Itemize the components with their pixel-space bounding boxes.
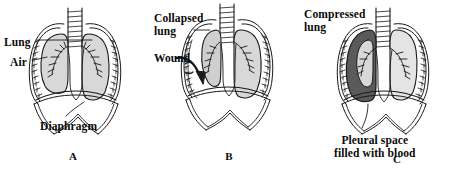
label-compressed-lung: Compressed lung — [304, 8, 365, 33]
lung-right-a — [82, 34, 109, 100]
trachea-a — [68, 8, 82, 48]
panel-a-illustration — [0, 0, 152, 172]
label-collapsed-lung: Collapsed lung — [154, 12, 203, 37]
panel-c-hemothorax: Compressed lung Pleural space filled wit… — [304, 0, 468, 172]
figure-canvas: Lung Air Diaphragm A — [0, 0, 468, 172]
panel-letter-a: A — [58, 150, 88, 162]
panel-letter-c: C — [382, 153, 412, 165]
lung-collapsed-b — [202, 30, 221, 87]
label-wound: Wound — [154, 52, 190, 65]
panel-b-open-pneumothorax: Collapsed lung Wound B — [152, 0, 304, 172]
leader-pleural-c — [362, 104, 368, 128]
lung-compressed-c — [357, 40, 373, 87]
panel-a-normal-thorax: Lung Air Diaphragm A — [0, 0, 152, 172]
trachea-b — [220, 4, 234, 44]
label-lung: Lung — [4, 36, 31, 49]
label-diaphragm: Diaphragm — [40, 120, 97, 133]
panel-letter-b: B — [214, 150, 244, 162]
leader-diaphragm-a — [66, 102, 84, 116]
diaphragm-b — [186, 87, 270, 130]
trachea-c — [376, 8, 390, 48]
ribs-right-c — [416, 40, 426, 98]
label-air: Air — [10, 56, 27, 69]
